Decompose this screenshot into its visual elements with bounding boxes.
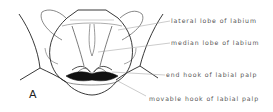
label-lateral-lobe: lateral lobe of labium bbox=[171, 18, 257, 24]
label-median-lobe: median lobe of labium bbox=[171, 40, 259, 46]
label-movable-hook: movable hook of labial palp bbox=[149, 96, 259, 102]
panel-letter: A bbox=[29, 89, 37, 100]
label-end-hook: end hook of labial palp bbox=[166, 72, 257, 78]
labium-diagram: lateral lobe of labium median lobe of la… bbox=[0, 0, 273, 112]
